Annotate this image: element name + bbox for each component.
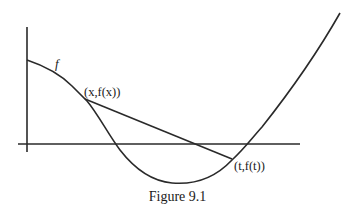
point-label-x: (x,f(x)) <box>84 85 120 99</box>
secant-line <box>85 99 232 159</box>
figure-diagram: f (x,f(x)) (t,f(t)) <box>0 0 355 211</box>
curve-label-f: f <box>55 56 61 71</box>
curve-f <box>27 13 340 183</box>
point-label-t: (t,f(t)) <box>234 159 265 173</box>
figure-caption: Figure 9.1 <box>0 189 355 205</box>
